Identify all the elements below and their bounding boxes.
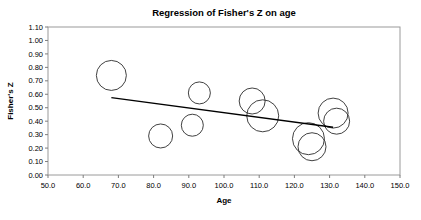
x-tick-label: 110.0 xyxy=(250,181,268,190)
x-tick-label: 60.0 xyxy=(76,181,91,190)
x-tick-label: 100.0 xyxy=(215,181,234,190)
x-tick-label: 130.0 xyxy=(320,181,339,190)
chart-figure: Regression of Fisher's Z on age 0.000.10… xyxy=(0,0,421,220)
y-tick-label: 0.80 xyxy=(28,63,43,72)
chart-title: Regression of Fisher's Z on age xyxy=(152,7,296,18)
y-tick-label: 0.20 xyxy=(28,144,43,153)
y-tick-label: 0.40 xyxy=(28,117,43,126)
x-tick-label: 140.0 xyxy=(355,181,374,190)
x-tick-label: 70.0 xyxy=(111,181,126,190)
y-tick-label: 0.60 xyxy=(28,90,43,99)
y-tick-label: 0.00 xyxy=(28,171,43,180)
x-tick-label: 90.0 xyxy=(181,181,196,190)
x-tick-label: 50.0 xyxy=(41,181,56,190)
regression-scatter-chart: Regression of Fisher's Z on age 0.000.10… xyxy=(0,0,421,220)
x-tick-label: 150.0 xyxy=(391,181,410,190)
y-tick-label: 0.10 xyxy=(28,157,43,166)
x-tick-label: 80.0 xyxy=(146,181,161,190)
y-tick-label: 0.30 xyxy=(28,130,43,139)
y-axis-title: Fisher's Z xyxy=(6,82,15,120)
y-tick-label: 1.10 xyxy=(28,23,43,32)
y-tick-label: 0.70 xyxy=(28,76,43,85)
y-tick-label: 0.50 xyxy=(28,103,43,112)
y-tick-label: 1.00 xyxy=(28,36,43,45)
x-tick-label: 120.0 xyxy=(285,181,304,190)
y-tick-label: 0.90 xyxy=(28,50,43,59)
x-axis-title: Age xyxy=(216,196,232,205)
